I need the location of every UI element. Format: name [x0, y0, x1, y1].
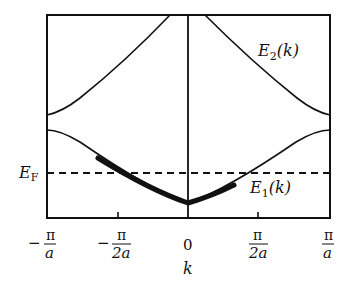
tick-label-neg-pi-a: − π a	[28, 227, 56, 262]
label-fermi: EF	[18, 163, 39, 184]
svg-text:π: π	[324, 227, 333, 243]
svg-text:−: −	[97, 234, 110, 252]
band-structure-diagram: E2(k) E1(k) EF − π a − π 2a 0 π 2a π a k	[0, 0, 346, 289]
svg-text:π: π	[253, 227, 262, 243]
svg-text:2a: 2a	[111, 244, 131, 262]
band-e2-right	[205, 15, 330, 115]
x-axis-label: k	[183, 259, 193, 278]
label-e1: E1(k)	[249, 178, 291, 200]
band-e1-occupied	[98, 158, 234, 203]
tick-label-neg-pi-2a: − π 2a	[97, 227, 131, 262]
tick-label-zero: 0	[183, 236, 193, 254]
svg-text:π: π	[117, 227, 126, 243]
svg-text:−: −	[28, 234, 41, 252]
svg-text:a: a	[323, 244, 332, 262]
tick-label-pos-pi-a: π a	[322, 227, 334, 262]
svg-text:2a: 2a	[248, 244, 268, 262]
svg-text:a: a	[45, 244, 54, 262]
label-e2: E2(k)	[257, 41, 299, 63]
band-e2-left	[47, 15, 170, 115]
tick-label-pos-pi-2a: π 2a	[248, 227, 268, 262]
svg-text:π: π	[46, 227, 55, 243]
